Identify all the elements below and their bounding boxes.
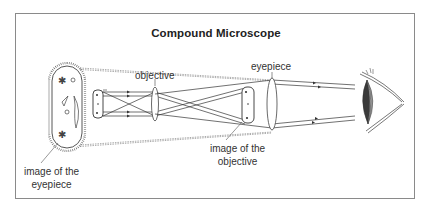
image-of-eyepiece-pointer [41,143,58,163]
svg-text:✱: ✱ [58,129,66,140]
image-of-eyepiece-line2: eyepiece [24,178,79,191]
objective-label: objective [135,69,174,82]
specimen [93,90,107,118]
eyepiece-lens [267,78,277,130]
eye [360,68,404,133]
virtual-image-specimen: ✱ ✱ [49,63,85,151]
objective-lens [152,87,159,121]
eye-ray-arrows [312,82,321,125]
eyepiece-label: eyepiece [251,60,291,73]
image-of-objective-label: image of the objective [210,142,265,168]
image-of-eyepiece-line1: image of the [24,165,79,178]
svg-text:✱: ✱ [58,75,66,86]
image-of-objective-line1: image of the [210,142,265,155]
intermediate-image [242,87,254,123]
objective-rays [103,88,245,124]
diagram-canvas: Compound Microscope ✱ ✱ [0,0,432,215]
image-of-objective-line2: objective [210,155,265,168]
image-of-eyepiece-label: image of the eyepiece [24,165,79,191]
image-of-objective-pointer [226,122,242,140]
